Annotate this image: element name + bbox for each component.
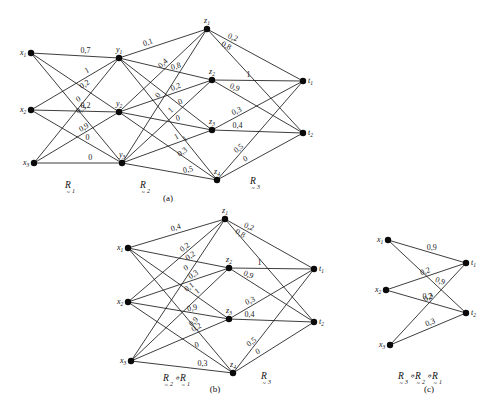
edge-x3-t1: 0,3 — [390, 263, 466, 345]
node-z4[interactable]: z4 — [229, 360, 236, 376]
node-dot — [463, 310, 469, 316]
node-dot — [31, 160, 37, 166]
edge-weight-label: 0,5 — [182, 164, 194, 175]
relation-subscript: 1 — [439, 379, 442, 385]
node-dot — [116, 109, 122, 115]
node-y1[interactable]: y1 — [115, 45, 123, 61]
node-label-subscript: 2 — [212, 71, 215, 77]
node-dot — [383, 287, 389, 293]
edge-z2-t1: 1 — [229, 258, 314, 269]
edge-weight-label: 0,5 — [232, 142, 245, 155]
node-x3[interactable]: x3 — [22, 158, 37, 168]
edge-weight-label: 0,3 — [197, 359, 207, 368]
node-label-subscript: 1 — [121, 247, 124, 253]
edge-group: 0,90,20,30,90,20,3 — [386, 240, 466, 345]
node-dot — [209, 77, 215, 83]
edge-weight-label: 0,4 — [170, 222, 182, 234]
edge-z1-t1: 0,2 — [207, 29, 303, 81]
node-t1[interactable]: t1 — [463, 258, 476, 268]
node-t1[interactable]: t1 — [311, 264, 324, 274]
node-dot — [125, 245, 131, 251]
edge-line — [119, 112, 212, 130]
edge-weight-label: 0 — [175, 113, 181, 123]
node-z3[interactable]: z3 — [208, 117, 215, 133]
node-label: x1 — [116, 243, 124, 253]
edge-group: 0,70,20,310,2000,900,10,8010,40,200,3011… — [31, 29, 303, 180]
node-z1[interactable]: z1 — [203, 16, 210, 32]
edge-line — [128, 268, 229, 302]
node-label-subscript: 2 — [310, 132, 313, 138]
edge-line — [119, 58, 217, 180]
node-label: x1 — [19, 48, 27, 58]
node-label: t2 — [308, 128, 313, 138]
edge-line — [217, 133, 303, 180]
node-x1[interactable]: x1 — [19, 48, 34, 58]
node-z4[interactable]: z4 — [213, 167, 220, 183]
edge-weight-label: 0,3 — [230, 105, 243, 117]
relation-label-group: R~3∘R~2∘R~1 — [397, 371, 442, 386]
relation-symbol: R~3 — [260, 371, 271, 386]
node-label-subscript: 1 — [310, 80, 313, 86]
node-x2[interactable]: x2 — [19, 105, 34, 115]
edge-weight-label: 0,4 — [156, 57, 169, 70]
node-dot — [226, 316, 232, 322]
edge-x3-y3: 0 — [34, 153, 122, 163]
node-t2[interactable]: t2 — [300, 128, 313, 138]
node-label: t2 — [471, 308, 476, 318]
node-dot — [387, 342, 393, 348]
node-label: t1 — [471, 258, 476, 268]
edge-line — [119, 29, 207, 58]
node-z2[interactable]: z2 — [208, 67, 215, 83]
node-label: x2 — [116, 297, 124, 307]
edge-x3-z4: 0,3 — [131, 359, 233, 373]
edge-line — [212, 80, 303, 81]
node-label-subscript: 3 — [382, 344, 386, 350]
node-label: x2 — [374, 285, 382, 295]
node-y2[interactable]: y2 — [115, 99, 123, 115]
node-label: z4 — [213, 167, 220, 177]
node-t2[interactable]: t2 — [311, 317, 324, 327]
panel-b: 0,40,20,10,90,20,30,90010,20,30,20,810,9… — [116, 206, 324, 394]
node-label: x3 — [119, 356, 127, 366]
edge-weight-label: 0 — [242, 154, 249, 164]
node-group: x1x2x3z1z2z3z4t1t2 — [116, 206, 324, 376]
node-x2[interactable]: x2 — [116, 297, 131, 307]
node-dot — [128, 358, 134, 364]
node-z1[interactable]: z1 — [221, 206, 228, 222]
node-dot — [230, 370, 236, 376]
edge-y1-z4: 1 — [119, 58, 217, 180]
edge-weight-label: 1 — [258, 258, 262, 267]
node-dot — [226, 265, 232, 271]
node-t2[interactable]: t2 — [463, 308, 476, 318]
node-x2[interactable]: x2 — [374, 285, 389, 295]
node-z3[interactable]: z3 — [225, 306, 232, 322]
edge-line — [212, 130, 303, 133]
edge-weight-label: 0,3 — [244, 295, 257, 307]
edge-x1-y2: 0,2 — [31, 53, 119, 112]
edge-weight-label: 0 — [85, 133, 89, 142]
node-label-subscript: 2 — [120, 103, 123, 109]
edge-weight-label: 1 — [246, 70, 250, 79]
node-z2[interactable]: z2 — [225, 255, 232, 271]
node-label: y1 — [115, 45, 123, 55]
node-x3[interactable]: x3 — [378, 340, 393, 350]
edge-z4-t2: 0 — [233, 322, 314, 373]
edge-weight-label: 1 — [83, 66, 91, 76]
node-x1[interactable]: x1 — [376, 235, 391, 245]
panel-caption: (a) — [163, 193, 173, 203]
edge-x3-z3: 0,2 — [131, 319, 229, 361]
node-label-subscript: 3 — [26, 162, 30, 168]
edge-line — [229, 319, 314, 322]
node-dot — [28, 107, 34, 113]
edge-line — [233, 322, 314, 373]
node-label-subscript: 1 — [24, 52, 27, 58]
node-dot — [119, 160, 125, 166]
node-label-subscript: 2 — [24, 109, 27, 115]
node-t1[interactable]: t1 — [300, 76, 313, 86]
edge-weight-label: 0 — [74, 94, 82, 104]
node-y3[interactable]: y3 — [118, 150, 126, 166]
node-label: x3 — [22, 158, 30, 168]
relation-subscript: 3 — [256, 184, 260, 190]
node-x3[interactable]: x3 — [119, 356, 134, 366]
node-x1[interactable]: x1 — [116, 243, 131, 253]
